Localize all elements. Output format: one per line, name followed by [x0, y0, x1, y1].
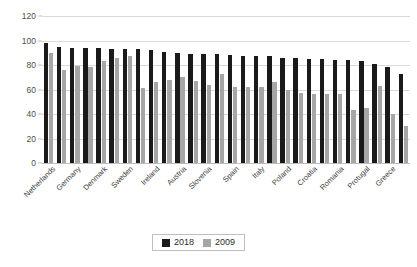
bar-group: [254, 16, 264, 163]
bar-2018: [175, 53, 179, 163]
y-tick-label-80: 80: [27, 61, 36, 70]
bar-group: [359, 16, 369, 163]
legend-item-2009: 2009: [203, 238, 235, 247]
bar-2018: [372, 64, 376, 163]
y-tick-label-60: 60: [27, 85, 36, 94]
bar-group: [57, 16, 67, 163]
bar-2009: [102, 61, 106, 163]
bar-2009: [259, 87, 263, 163]
bar-group: [293, 16, 303, 163]
x-tick-label: Ireland: [139, 165, 161, 187]
bar-2018: [162, 52, 166, 163]
bar-group: [96, 16, 106, 163]
bar-2018: [385, 67, 389, 163]
bar-group: [175, 16, 185, 163]
x-tick-label: Netherlands: [22, 165, 56, 199]
bar-2009: [364, 108, 368, 163]
x-tick-label: Slovenia: [188, 165, 214, 191]
bar-group: [333, 16, 343, 163]
x-tick-label: Poland: [271, 165, 293, 187]
bar-2009: [128, 56, 132, 163]
x-tick-label: Croatia: [297, 165, 319, 187]
bar-2018: [333, 60, 337, 163]
y-tick-label-40: 40: [27, 110, 36, 119]
bar-group: [188, 16, 198, 163]
bar-group: [215, 16, 225, 163]
bar-2018: [280, 58, 284, 163]
bar-group: [307, 16, 317, 163]
bar-2009: [194, 81, 198, 163]
bar-2018: [215, 54, 219, 163]
bar-2009: [338, 94, 342, 163]
legend-item-2018: 2018: [162, 238, 194, 247]
bar-2009: [154, 82, 158, 163]
bar-2018: [359, 61, 363, 163]
bar-2018: [96, 48, 100, 163]
bar-2009: [299, 93, 303, 163]
bar-group: [44, 16, 54, 163]
bar-2009: [391, 114, 395, 163]
bar-2009: [286, 90, 290, 164]
bar-2018: [267, 56, 271, 163]
x-tick-label: Austria: [166, 165, 188, 187]
bar-group: [228, 16, 238, 163]
bar-2009: [378, 86, 382, 163]
bar-2018: [293, 58, 297, 163]
legend-swatch-icon-2018: [162, 239, 170, 247]
bar-2018: [241, 56, 245, 163]
y-tick-label-100: 100: [22, 36, 36, 45]
bar-2018: [307, 59, 311, 163]
bar-2009: [75, 66, 79, 163]
legend-label-2009: 2009: [215, 238, 235, 247]
y-tick-label-120: 120: [22, 12, 36, 21]
bar-group: [399, 16, 409, 163]
bar-2009: [180, 77, 184, 163]
bar-group: [109, 16, 119, 163]
bar-2009: [233, 87, 237, 163]
bar-2009: [246, 87, 250, 163]
legend-swatch-icon-2009: [203, 239, 211, 247]
legend-label-2018: 2018: [174, 238, 194, 247]
bar-2018: [136, 49, 140, 163]
bar-group: [267, 16, 277, 163]
bar-group: [346, 16, 356, 163]
bar-2009: [404, 126, 408, 163]
bar-2018: [123, 49, 127, 163]
bar-group: [162, 16, 172, 163]
x-tick-label: Romania: [318, 165, 345, 192]
bar-group: [149, 16, 159, 163]
x-tick-label: Denmark: [82, 165, 109, 192]
bar-2009: [141, 88, 145, 163]
y-axis: 020406080100120: [0, 16, 36, 163]
bar-2018: [70, 48, 74, 163]
bar-2018: [254, 56, 258, 163]
bar-chart: 020406080100120 NetherlandsGermanyDenmar…: [0, 0, 417, 267]
bar-2009: [88, 67, 92, 163]
bar-group: [280, 16, 290, 163]
bar-2018: [109, 49, 113, 163]
bar-2009: [49, 53, 53, 163]
bar-group: [136, 16, 146, 163]
bar-2009: [62, 70, 66, 163]
plot-area: [42, 16, 410, 163]
bar-2018: [320, 59, 324, 163]
x-tick-label: Italy: [251, 165, 266, 180]
chart-legend: 2018 2009: [152, 234, 245, 251]
x-tick-label: Protugal: [346, 165, 371, 190]
bar-2018: [201, 54, 205, 163]
bar-2018: [149, 50, 153, 163]
x-tick-label: Greece: [374, 165, 397, 188]
bar-2009: [351, 110, 355, 163]
bar-2018: [83, 48, 87, 163]
x-axis-labels: NetherlandsGermanyDenmarkSwedenIrelandAu…: [42, 163, 410, 223]
bar-group: [201, 16, 211, 163]
y-tick-label-20: 20: [27, 134, 36, 143]
bar-2018: [399, 74, 403, 163]
bar-2009: [325, 94, 329, 163]
x-tick-label: Germany: [55, 165, 82, 192]
bar-2009: [220, 74, 224, 163]
bar-group: [70, 16, 80, 163]
bar-group: [320, 16, 330, 163]
bar-group: [372, 16, 382, 163]
bar-2018: [228, 55, 232, 163]
